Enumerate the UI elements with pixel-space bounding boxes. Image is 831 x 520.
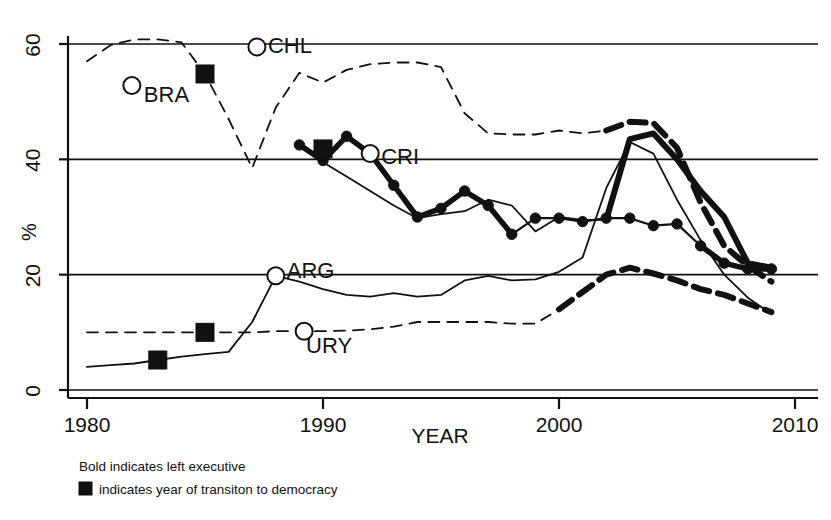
legend-bold-note: Bold indicates left executive [79, 459, 246, 474]
data-point-cri [341, 131, 351, 141]
chart-figure: 02040601980199020002010 BRACHLCRIARGURY … [0, 0, 831, 520]
data-point-cri [554, 213, 564, 223]
series-label-marker-arg [267, 267, 284, 284]
data-point-cri [483, 200, 493, 210]
data-point-cri [672, 219, 682, 229]
data-point-cri [743, 264, 753, 274]
data-point-cri [695, 241, 705, 251]
legend: Bold indicates left executive indicates … [79, 459, 338, 497]
series-annotations: BRACHLCRIARGURY [123, 33, 419, 358]
transition-marker-bra [196, 65, 214, 83]
legend-transition-note: indicates year of transiton to democracy [99, 482, 338, 497]
series-label-marker-cri [362, 145, 379, 162]
series-label-cri: CRI [381, 144, 419, 169]
data-point-cri [412, 212, 422, 222]
data-point-cri [294, 140, 304, 150]
data-point-cri [389, 180, 399, 190]
series-label-marker-bra [123, 77, 140, 94]
data-point-cri [436, 203, 446, 213]
data-point-cri [625, 213, 635, 223]
y-tick-label: 0 [21, 385, 44, 397]
series-label-ury: URY [306, 333, 352, 358]
x-tick-label: 1990 [300, 413, 347, 436]
transition-marker-arg [149, 351, 167, 369]
data-point-cri [530, 213, 540, 223]
legend-square-icon [79, 482, 92, 495]
data-point-cri [577, 216, 587, 226]
x-axis-title: YEAR [411, 424, 468, 447]
x-tick-label: 1980 [64, 413, 111, 436]
y-axis-title: % [18, 223, 40, 241]
series-label-bra: BRA [144, 82, 190, 107]
x-tick-label: 2010 [772, 413, 819, 436]
series-lines [87, 39, 777, 367]
data-point-cri [459, 186, 469, 196]
axes: 02040601980199020002010 [21, 33, 818, 436]
series-label-chl: CHL [268, 33, 312, 58]
data-point-cri [507, 229, 517, 239]
transition-marker-ury [196, 323, 214, 341]
series-line-bold-bra [606, 133, 771, 267]
chart-canvas: 02040601980199020002010 BRACHLCRIARGURY … [0, 0, 831, 520]
series-line-ury [87, 309, 559, 332]
series-label-arg: ARG [287, 258, 335, 283]
y-tick-label: 20 [21, 264, 44, 287]
x-tick-label: 2000 [536, 413, 583, 436]
y-tick-label: 40 [21, 149, 44, 172]
transition-marker-chl [314, 140, 332, 158]
data-point-cri [601, 213, 611, 223]
data-point-cri [766, 264, 776, 274]
data-point-cri [719, 258, 729, 268]
series-label-marker-chl [248, 38, 265, 55]
data-point-cri [648, 220, 658, 230]
y-tick-label: 60 [21, 33, 44, 56]
